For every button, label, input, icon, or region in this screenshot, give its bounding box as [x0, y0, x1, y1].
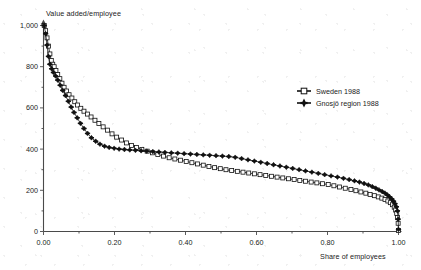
y-tick-label: 600 — [2, 103, 38, 112]
data-point-marker — [179, 158, 183, 162]
axes-group — [40, 20, 402, 236]
data-point-marker — [298, 178, 302, 182]
series-line — [44, 26, 398, 230]
series-group — [42, 23, 401, 232]
data-point-marker — [321, 182, 325, 186]
data-point-marker — [309, 180, 313, 184]
data-point-marker — [372, 194, 376, 198]
x-axis-title: Share of employees — [320, 252, 386, 261]
data-point-marker — [230, 169, 234, 173]
x-tick-label: 1.00 — [379, 238, 419, 247]
data-point-marker — [326, 183, 330, 187]
y-tick-label: 200 — [2, 186, 38, 195]
data-point-marker — [359, 190, 363, 194]
data-point-marker — [105, 128, 109, 132]
data-point-marker — [252, 172, 256, 176]
data-point-marker — [241, 170, 245, 174]
series-line — [44, 26, 398, 231]
y-tick-label: 800 — [2, 62, 38, 71]
data-point-marker — [343, 186, 347, 190]
data-point-marker — [349, 187, 353, 191]
x-tick-label: 0.40 — [166, 238, 206, 247]
data-point-marker — [224, 168, 228, 172]
data-point-marker — [184, 159, 188, 163]
data-point-marker — [213, 166, 217, 170]
data-point-marker — [93, 118, 97, 122]
x-tick-label: 0.00 — [24, 238, 64, 247]
data-point-marker — [264, 173, 268, 177]
data-point-marker — [130, 143, 134, 147]
data-point-marker — [258, 173, 262, 177]
data-point-marker — [120, 138, 124, 142]
data-point-marker — [281, 176, 285, 180]
data-point-marker — [115, 135, 119, 139]
data-point-marker — [89, 115, 93, 119]
data-point-marker — [269, 174, 273, 178]
data-point-marker — [196, 162, 200, 166]
data-point-marker — [315, 181, 319, 185]
data-point-marker — [368, 192, 372, 196]
data-point-marker — [101, 125, 105, 129]
data-point-marker — [235, 169, 239, 173]
data-point-marker — [303, 179, 307, 183]
series-sweden — [42, 24, 400, 233]
data-point-marker — [97, 122, 101, 126]
data-point-marker — [110, 132, 114, 136]
data-point-marker — [125, 141, 129, 145]
data-point-marker — [207, 164, 211, 168]
legend-label-sweden: Sweden 1988 — [316, 87, 360, 96]
plot-canvas — [0, 0, 421, 270]
legend-item-sweden: Sweden 1988 — [296, 85, 408, 97]
legend-label-gnosjo: Gnosjö region 1988 — [316, 99, 379, 108]
data-point-marker — [218, 167, 222, 171]
data-point-marker — [364, 191, 368, 195]
legend-item-gnosjo: Gnosjö region 1988 — [296, 97, 408, 109]
data-point-marker — [292, 178, 296, 182]
data-point-marker — [190, 161, 194, 165]
data-point-marker — [275, 175, 279, 179]
chart-legend: Sweden 1988 Gnosjö region 1988 — [296, 85, 408, 109]
data-point-marker — [201, 163, 205, 167]
x-tick-label: 0.20 — [95, 238, 135, 247]
y-tick-label: 1,000 — [2, 21, 38, 30]
y-tick-label: 400 — [2, 145, 38, 154]
filled-plus-marker-icon — [296, 97, 312, 109]
open-square-marker-icon — [296, 85, 312, 97]
data-point-marker — [173, 157, 177, 161]
data-point-marker — [332, 184, 336, 188]
data-point-marker — [167, 156, 171, 160]
data-point-marker — [338, 185, 342, 189]
data-point-marker — [354, 189, 358, 193]
data-point-marker — [247, 171, 251, 175]
chart-figure: Value added/employee Share of employees … — [0, 0, 421, 270]
series-gnosjo — [42, 23, 401, 232]
x-tick-label: 0.60 — [237, 238, 277, 247]
y-tick-label: 0 — [2, 227, 38, 236]
data-point-marker — [286, 177, 290, 181]
x-tick-label: 0.80 — [308, 238, 348, 247]
y-axis-title: Value added/employee — [46, 9, 121, 18]
